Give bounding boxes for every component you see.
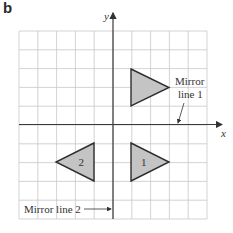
- y-axis-label: y: [103, 10, 109, 22]
- coordinate-diagram: x y 12 Mirror line 1 Mirror line 2: [0, 0, 233, 233]
- triangle-1: [131, 143, 169, 181]
- mirror-line-1-label: Mirror: [175, 75, 205, 87]
- mirror-line-1-label-2: line 1: [178, 88, 203, 100]
- upper-triangle: [131, 69, 169, 106]
- triangle-1-label: 1: [141, 156, 147, 168]
- x-axis-label: x: [220, 127, 226, 139]
- mirror-line-2-label: Mirror line 2: [24, 203, 81, 215]
- triangle-2-label: 2: [79, 156, 85, 168]
